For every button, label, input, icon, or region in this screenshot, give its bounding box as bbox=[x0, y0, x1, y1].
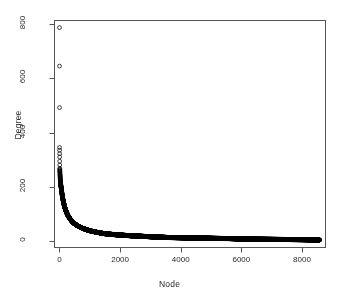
x-tick-label: 6000 bbox=[232, 255, 250, 264]
y-tick-label: 200 bbox=[18, 163, 27, 207]
scatter-plot-canvas bbox=[0, 0, 339, 303]
y-tick-label: 400 bbox=[18, 109, 27, 153]
y-tick-label: 600 bbox=[18, 55, 27, 99]
x-tick-label: 2000 bbox=[111, 255, 129, 264]
y-tick-label: 800 bbox=[18, 1, 27, 45]
x-tick-label: 8000 bbox=[293, 255, 311, 264]
x-axis-label: Node bbox=[0, 279, 339, 289]
x-tick-label: 4000 bbox=[172, 255, 190, 264]
chart-figure: Node Degree 02000400060008000 0200400600… bbox=[0, 0, 339, 303]
y-tick-label: 0 bbox=[18, 218, 27, 262]
x-tick-label: 0 bbox=[57, 255, 61, 264]
